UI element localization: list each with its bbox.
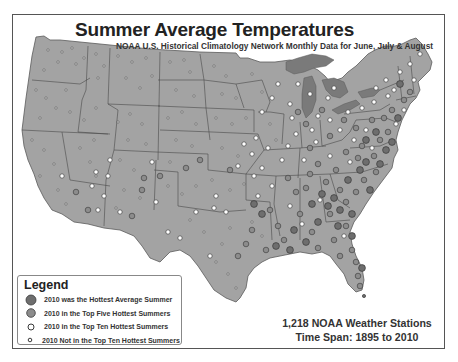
large-dark-circle-icon <box>24 294 38 306</box>
map-title: Summer Average Temperatures <box>75 19 354 41</box>
legend-item-hottest: 2010 was the Hottest Average Summer <box>24 293 175 307</box>
legend: Legend 2010 was the Hottest Average Summ… <box>17 275 182 345</box>
legend-label: 2010 Not in the Top Ten Hottest Summers <box>42 337 180 344</box>
stats-block: 1,218 NOAA Weather Stations Time Span: 1… <box>272 316 442 344</box>
station-count: 1,218 NOAA Weather Stations <box>272 316 442 330</box>
legend-label: 2010 was the Hottest Average Summer <box>44 296 172 303</box>
legend-item-top-ten: 2010 in the Top Ten Hottest Summers <box>24 320 175 334</box>
map-subtitle: NOAA U.S. Historical Climatology Network… <box>116 41 433 51</box>
tiny-white-circle-icon <box>24 334 36 346</box>
time-span: Time Span: 1895 to 2010 <box>272 330 442 344</box>
legend-item-not-top-ten: 2010 Not in the Top Ten Hottest Summers <box>24 334 175 348</box>
medium-gray-circle-icon <box>24 307 38 319</box>
legend-label: 2010 in the Top Ten Hottest Summers <box>44 323 168 330</box>
small-white-circle-icon <box>24 321 38 333</box>
legend-title: Legend <box>24 278 175 292</box>
legend-label: 2010 in the Top Five Hottest Summers <box>44 310 170 317</box>
legend-item-top-five: 2010 in the Top Five Hottest Summers <box>24 307 175 321</box>
